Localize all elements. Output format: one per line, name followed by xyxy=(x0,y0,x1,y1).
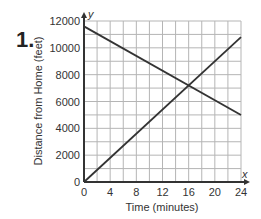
y-tick-label: 10000 xyxy=(49,42,80,54)
x-tick-label: 8 xyxy=(133,186,139,198)
x-tick-label: 16 xyxy=(183,186,195,198)
y-tick-label: 4000 xyxy=(56,122,80,134)
x-tick-label: 12 xyxy=(156,186,168,198)
y-axis-arrow-icon xyxy=(81,12,87,18)
x-tick-label: 0 xyxy=(81,186,87,198)
y-tick-label: 12000 xyxy=(49,15,80,27)
x-tick-label: 4 xyxy=(107,186,113,198)
y-axis-letter: y xyxy=(87,8,95,20)
y-tick-label: 8000 xyxy=(56,69,80,81)
tick-labels: 04812162024020004000600080001000012000 xyxy=(49,15,247,198)
x-tick-label: 24 xyxy=(235,186,247,198)
line-chart: 04812162024020004000600080001000012000 T… xyxy=(0,0,261,219)
y-tick-label: 0 xyxy=(74,176,80,188)
x-tick-label: 20 xyxy=(209,186,221,198)
x-axis-letter: x xyxy=(241,168,248,180)
x-axis-label: Time (minutes) xyxy=(126,201,199,213)
y-axis-label: Distance from Home (feet) xyxy=(32,37,44,166)
y-tick-label: 2000 xyxy=(56,149,80,161)
y-tick-label: 6000 xyxy=(56,96,80,108)
